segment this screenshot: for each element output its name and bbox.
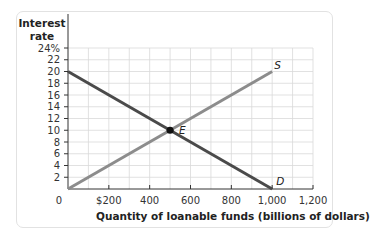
y-tick-label: 4	[54, 160, 60, 171]
y-tick-label: 16	[47, 90, 60, 101]
demand-label: D	[276, 175, 284, 187]
y-tick-label: 2	[54, 172, 60, 183]
x-axis-label: Quantity of loanable funds (billions of …	[96, 210, 370, 222]
y-tick-label: 14	[47, 101, 60, 112]
y-tick-label: 24%	[38, 43, 60, 54]
supply-label: S	[274, 59, 281, 71]
y-tick-label: 22	[47, 54, 60, 65]
y-tick-label: 20	[47, 66, 60, 77]
equilibrium-label: E	[179, 124, 186, 136]
y-tick-label: 10	[47, 125, 60, 136]
x-tick-label: 600	[181, 195, 200, 206]
x-tick-label: 400	[140, 195, 159, 206]
y-tick-label: 8	[54, 137, 60, 148]
x-tick-label: 1,000	[258, 195, 287, 206]
x-tick-label: 800	[222, 195, 241, 206]
axes	[64, 14, 313, 189]
x-tick-label: $200	[96, 195, 121, 206]
equilibrium-point	[166, 127, 173, 134]
y-tick-label: 12	[47, 113, 60, 124]
y-tick-label: 18	[47, 78, 60, 89]
y-tick-label: 6	[54, 148, 60, 159]
x-tick-label: 1,200	[299, 195, 328, 206]
x-tick-label: 0	[56, 195, 62, 206]
